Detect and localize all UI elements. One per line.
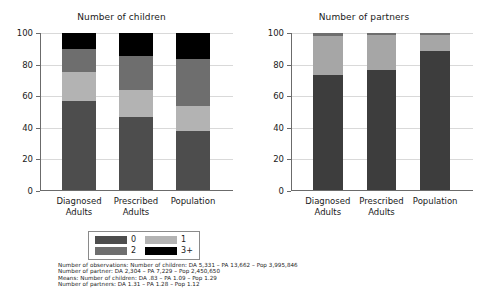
- y-axis-tick-label: 20: [22, 154, 33, 164]
- legend-item-3plus[interactable]: 3+: [145, 247, 193, 255]
- y-axis-tick-label: 40: [22, 123, 33, 133]
- x-axis-tick-label: DiagnosedAdults: [56, 196, 101, 217]
- legend-label: 2: [131, 247, 136, 255]
- y-axis-tick-label: 60: [22, 91, 33, 101]
- bar-segment-3plus: [119, 33, 152, 56]
- bar-segment-2: [367, 35, 397, 70]
- y-axis-tick: [287, 33, 291, 34]
- left-legend: 0123+: [88, 231, 200, 260]
- y-axis-tick: [36, 33, 40, 34]
- bar-segment-2: [119, 56, 152, 91]
- legend-label: 3+: [181, 247, 193, 255]
- footnote-block: Number of observations: Number of childr…: [58, 262, 458, 288]
- legend-item-0[interactable]: 0: [95, 236, 136, 244]
- right-x-axis: [291, 190, 473, 191]
- bar-segment-3plus: [62, 33, 95, 49]
- y-axis-tick-label: 0: [28, 186, 33, 196]
- x-axis-tick-label: PrescribedAdults: [114, 196, 159, 217]
- y-axis-tick-label: 100: [17, 28, 33, 38]
- x-axis-tick-label: DiagnosedAdults: [305, 196, 350, 217]
- left-plot-area: 020406080100DiagnosedAdultsPrescribedAdu…: [40, 33, 231, 191]
- bar-segment-1: [367, 70, 397, 190]
- y-axis-tick: [36, 191, 40, 192]
- y-axis-tick-label: 80: [22, 60, 33, 70]
- bar-segment-0: [119, 117, 152, 190]
- bar-segment-0: [62, 101, 95, 190]
- legend-swatch: [95, 247, 127, 255]
- legend-swatch: [145, 247, 177, 255]
- y-axis-tick: [287, 96, 291, 97]
- bar-segment-0: [176, 131, 209, 190]
- left-chart-title: Number of children: [0, 12, 243, 22]
- panel-number-of-partners: Number of partners 020406080100Diagnosed…: [243, 0, 485, 228]
- bar-segment-1: [62, 72, 95, 101]
- legend-item-1[interactable]: 1: [145, 236, 193, 244]
- x-axis-tick-label: PrescribedAdults: [359, 196, 404, 217]
- y-axis-tick-label: 60: [273, 91, 284, 101]
- left-x-axis: [40, 190, 233, 191]
- bar-prescribed-adults[interactable]: PrescribedAdults: [367, 33, 397, 190]
- legend-label: 1: [181, 236, 186, 244]
- right-plot-area: 020406080100DiagnosedAdultsPrescribedAdu…: [291, 33, 471, 191]
- bar-group: DiagnosedAdultsPrescribedAdultsPopulatio…: [41, 33, 231, 190]
- footnote-line-4: Number of partners: DA 1.31 – PA 1.28 – …: [58, 281, 458, 287]
- bar-group: DiagnosedAdultsPrescribedAdultsPopulatio…: [292, 33, 471, 190]
- bar-prescribed-adults[interactable]: PrescribedAdults: [119, 33, 152, 190]
- bar-segment-1: [313, 75, 343, 190]
- legend-swatch: [95, 236, 127, 244]
- bar-population[interactable]: Population: [176, 33, 209, 190]
- y-axis-tick-label: 40: [273, 123, 284, 133]
- y-axis-tick-label: 80: [273, 60, 284, 70]
- right-chart-title: Number of partners: [243, 12, 485, 22]
- bar-segment-2: [420, 35, 450, 51]
- bar-segment-2: [176, 59, 209, 106]
- bar-segment-1: [420, 51, 450, 190]
- bar-segment-2: [313, 36, 343, 74]
- panel-number-of-children: Number of children 020406080100Diagnosed…: [0, 0, 243, 228]
- x-axis-tick-label: Population: [413, 196, 458, 207]
- y-axis-tick: [287, 65, 291, 66]
- bar-segment-2: [62, 49, 95, 73]
- stacked-bar-figure: Number of children 020406080100Diagnosed…: [0, 0, 485, 298]
- y-axis-tick: [287, 128, 291, 129]
- legend-swatch: [145, 236, 177, 244]
- y-axis-tick: [287, 191, 291, 192]
- bar-diagnosed-adults[interactable]: DiagnosedAdults: [62, 33, 95, 190]
- y-axis-tick: [36, 65, 40, 66]
- y-axis-tick: [287, 159, 291, 160]
- y-axis-tick: [36, 128, 40, 129]
- y-axis-tick: [36, 159, 40, 160]
- bar-segment-1: [119, 90, 152, 117]
- y-axis-tick: [36, 96, 40, 97]
- y-axis-tick-label: 100: [268, 28, 284, 38]
- bar-segment-3plus: [176, 33, 209, 59]
- y-axis-tick-label: 20: [273, 154, 284, 164]
- y-axis-tick-label: 0: [279, 186, 284, 196]
- bar-diagnosed-adults[interactable]: DiagnosedAdults: [313, 33, 343, 190]
- legend-item-2[interactable]: 2: [95, 247, 136, 255]
- x-axis-tick-label: Population: [171, 196, 216, 207]
- bar-population[interactable]: Population: [420, 33, 450, 190]
- bar-segment-1: [176, 106, 209, 131]
- legend-label: 0: [131, 236, 136, 244]
